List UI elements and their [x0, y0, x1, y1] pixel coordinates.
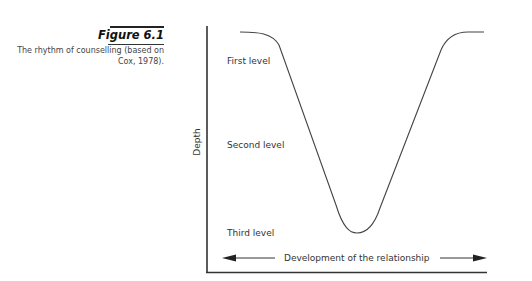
level-label-third: Third level [226, 228, 274, 238]
x-axis-title: Development of the relationship [284, 253, 430, 263]
left-arrow-icon [222, 255, 275, 262]
y-axis-title: Depth [192, 128, 202, 155]
level-label-second: Second level [227, 140, 284, 150]
depth-chart: First level Second level Third level Dep… [0, 0, 532, 281]
depth-curve [240, 32, 484, 233]
level-label-first: First level [227, 56, 270, 66]
right-arrow-icon [440, 255, 487, 262]
